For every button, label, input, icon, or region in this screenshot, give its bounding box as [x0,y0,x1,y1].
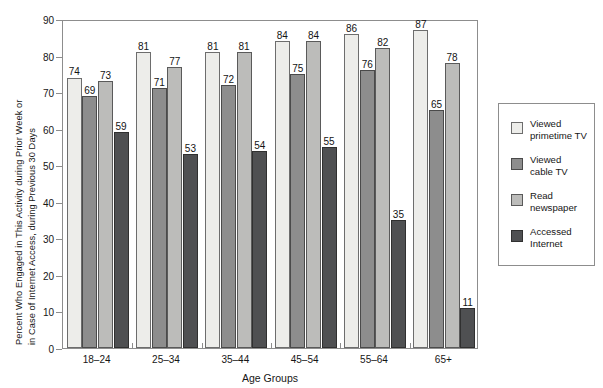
bar-3-1 [183,154,198,348]
plot-area: 7469735981717753817281548475845586768235… [62,20,478,349]
legend-label: AccessedInternet [530,226,600,249]
legend-label: Viewedcable TV [530,154,600,177]
x-axis-group-label: 45–54 [270,354,340,365]
bar-2-2 [237,52,252,348]
legend-label: Viewedprimetime TV [530,118,600,141]
x-axis-tick [340,343,341,348]
bar-1-4 [360,70,375,348]
bar-0-3 [275,41,290,348]
x-axis-tick [202,343,203,348]
bar-value-label: 84 [300,30,326,41]
legend-item-0[interactable]: Viewedprimetime TV [511,118,597,150]
bar-3-0 [114,132,129,348]
x-axis-tick [132,343,133,348]
y-axis-tick-label: 80 [20,51,54,62]
bar-value-label: 78 [439,52,465,63]
legend-label-line-2: cable TV [530,166,600,178]
bar-1-3 [290,74,305,348]
legend: Viewedprimetime TVViewedcable TVReadnews… [498,103,595,266]
x-axis-tick [410,343,411,348]
bar-1-1 [152,88,167,348]
bar-value-label: 11 [455,297,481,308]
bar-value-label: 35 [385,209,411,220]
legend-swatch-icon [511,122,523,134]
bar-value-label: 54 [247,140,273,151]
y-axis-tick-label: 50 [20,161,54,172]
x-axis-group-label: 35–44 [200,354,270,365]
legend-swatch-icon [511,230,523,242]
bar-0-2 [205,52,220,348]
legend-swatch-icon [511,194,523,206]
y-axis-tick-label: 60 [20,124,54,135]
bar-value-label: 81 [231,41,257,52]
bar-chart-figure: Percent Who Engaged in This Activity dur… [0,0,603,388]
bar-2-3 [306,41,321,348]
bar-value-label: 86 [339,23,365,34]
legend-item-3[interactable]: AccessedInternet [511,226,597,258]
bar-value-label: 81 [131,41,157,52]
y-axis-tick-label: 10 [20,307,54,318]
legend-label-line-1: Viewed [530,118,600,130]
legend-item-2[interactable]: Readnewspaper [511,190,597,222]
bar-0-0 [67,78,82,349]
bar-1-5 [429,110,444,348]
x-axis-group-label: 18–24 [62,354,132,365]
bar-0-5 [413,30,428,348]
legend-label-line-1: Viewed [530,154,600,166]
y-axis-tick [56,349,62,350]
legend-item-1[interactable]: Viewedcable TV [511,154,597,186]
bar-value-label: 59 [108,121,134,132]
bar-3-2 [252,151,267,348]
bar-value-label: 82 [370,37,396,48]
y-axis-tick-label: 40 [20,197,54,208]
legend-swatch-icon [511,158,523,170]
x-axis-group-label: 25–34 [131,354,201,365]
bar-2-4 [375,48,390,348]
bar-value-label: 73 [92,70,118,81]
x-axis-tick [271,343,272,348]
legend-label-line-2: primetime TV [530,130,600,142]
x-axis-title: Age Groups [0,372,540,384]
bar-2-1 [167,67,182,348]
bar-value-label: 77 [162,56,188,67]
bar-value-label: 55 [316,136,342,147]
legend-label-line-1: Accessed [530,226,600,238]
y-axis-tick-label: 90 [20,15,54,26]
bar-value-label: 81 [200,41,226,52]
bar-value-label: 74 [61,66,87,77]
y-axis-tick-label: 30 [20,234,54,245]
bar-value-label: 84 [269,30,295,41]
legend-label-line-2: newspaper [530,202,600,214]
bar-0-4 [344,34,359,348]
bar-value-label: 53 [177,143,203,154]
x-axis-group-label: 55–64 [339,354,409,365]
bar-3-3 [322,147,337,348]
y-axis-tick-label: 20 [20,270,54,281]
legend-label: Readnewspaper [530,190,600,213]
bar-1-2 [221,85,236,348]
bar-value-label: 87 [408,19,434,30]
bar-3-5 [460,308,475,348]
x-axis-group-label: 65+ [408,354,478,365]
legend-label-line-2: Internet [530,238,600,250]
bar-0-1 [136,52,151,348]
y-axis-tick-label: 70 [20,88,54,99]
bar-1-0 [82,96,97,348]
y-axis-tick-label: 0 [20,344,54,355]
legend-label-line-1: Read [530,190,600,202]
bar-3-4 [391,220,406,348]
